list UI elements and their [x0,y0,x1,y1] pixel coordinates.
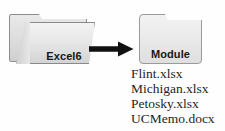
right-arrow-icon [89,41,134,57]
diagram-canvas: Excel6 Module Flint.xlsx Michigan.xlsx P… [0,0,225,131]
target-folder[interactable]: Module [139,14,202,64]
source-folder-label: Excel6 [34,50,94,62]
list-item: UCMemo.docx [131,111,225,126]
target-folder-label: Module [139,48,202,60]
list-item: Petosky.xlsx [131,96,225,111]
file-list: Flint.xlsx Michigan.xlsx Petosky.xlsx UC… [131,66,225,126]
list-item: Michigan.xlsx [131,81,225,96]
list-item: Flint.xlsx [131,66,225,81]
source-folder[interactable]: Excel6 [9,14,95,64]
